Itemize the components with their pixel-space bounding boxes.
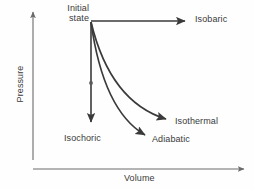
- initial-state-label: Initial state: [46, 3, 89, 23]
- process-paths-group: [89, 21, 185, 135]
- isobaric-label: Isobaric: [195, 14, 227, 24]
- isothermal-label: Isothermal: [175, 116, 218, 126]
- isochoric-label: Isochoric: [64, 133, 101, 143]
- y-axis-label: Pressure: [15, 49, 25, 119]
- isothermal-path: [91, 22, 166, 119]
- axes-group: [33, 12, 244, 169]
- x-axis-label: Volume: [124, 173, 155, 183]
- adiabatic-label: Adiabatic: [152, 134, 190, 144]
- adiabatic-path: [91, 22, 145, 135]
- pv-diagram-figure: Initial state Isobaric Isochoric Isother…: [0, 0, 254, 189]
- pv-diagram-canvas: [0, 0, 254, 189]
- initial-state-label-line1: Initial: [46, 3, 89, 13]
- midpoint-dot: [89, 81, 93, 85]
- initial-state-label-line2: state: [46, 13, 89, 23]
